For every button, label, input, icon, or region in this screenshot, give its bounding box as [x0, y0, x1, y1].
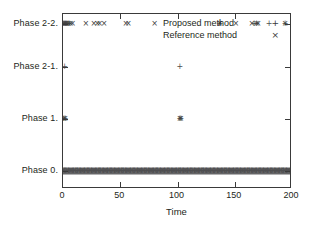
data-point: ×: [69, 20, 76, 28]
y-axis-label-phase-2-1: Phase 2-1.: [13, 61, 58, 71]
y-tick-right: [285, 171, 290, 172]
x-tick-100: [178, 182, 179, 187]
x-axis-label-0: 0: [59, 190, 64, 200]
y-axis-label-phase-1: Phase 1.: [22, 113, 58, 123]
data-point: ×: [125, 20, 132, 28]
y-tick-left: [63, 171, 68, 172]
data-point: +: [176, 115, 183, 123]
data-point: ×: [178, 115, 185, 123]
y-tick-right: [285, 119, 290, 120]
x-tick-150: [235, 182, 236, 187]
dense-marker-band: [63, 168, 290, 175]
data-point: ×: [151, 20, 158, 28]
y-axis-labels: Phase 2-2. Phase 2-1. Phase 1. Phase 0.: [0, 13, 58, 188]
data-point: ×: [96, 20, 103, 28]
x-tick-50: [120, 182, 121, 187]
legend-label-proposed: Proposed method: [163, 17, 234, 29]
data-point: ×: [101, 20, 108, 28]
legend-entry-reference: Reference method ×: [161, 29, 287, 41]
data-point: ×: [123, 20, 130, 28]
y-tick-left: [63, 119, 68, 120]
x-axis-title: Time: [62, 206, 291, 217]
x-axis-label-150: 150: [226, 190, 241, 200]
data-point: ×: [91, 20, 98, 28]
data-point: ×: [176, 115, 183, 123]
plot-frame: ×++×+××+×++×+××+×++×+××+×++×+××+×++×+××+…: [62, 13, 291, 188]
y-axis-label-phase-2-2: Phase 2-2.: [13, 18, 58, 28]
y-tick-left: [63, 24, 68, 25]
data-point: ×: [83, 20, 90, 28]
plus-icon: +: [271, 17, 279, 29]
x-axis-labels: 0 50 100 150 200: [62, 190, 291, 204]
data-point: ×: [94, 20, 101, 28]
data-point: ×: [67, 20, 74, 28]
cross-icon: ×: [271, 29, 279, 41]
y-axis-label-phase-0: Phase 0.: [22, 165, 58, 175]
x-axis-label-50: 50: [114, 190, 124, 200]
chart-legend: Proposed method + Reference method ×: [161, 17, 287, 41]
scatter-chart-figure: Phase 2-2. Phase 2-1. Phase 1. Phase 0. …: [0, 0, 310, 243]
data-point: +: [178, 115, 185, 123]
legend-label-reference: Reference method: [163, 29, 237, 41]
legend-entry-proposed: Proposed method +: [161, 17, 287, 29]
x-axis-label-100: 100: [169, 190, 184, 200]
y-tick-left: [63, 67, 68, 68]
y-tick-right: [285, 67, 290, 68]
data-point: +: [176, 63, 183, 71]
x-tick-top-50: [120, 14, 121, 19]
x-axis-label-200: 200: [283, 190, 298, 200]
